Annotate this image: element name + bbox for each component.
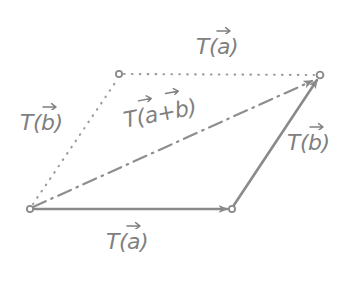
right-arrow-overbar-icon bbox=[126, 220, 143, 229]
right-arrow-overbar-icon bbox=[309, 121, 326, 130]
label-T-a-top-arg: a bbox=[217, 36, 230, 58]
label-T-a-bottom: T(a) bbox=[106, 231, 148, 253]
label-T-b-right: T(b) bbox=[287, 132, 330, 154]
label-T-b-left-close: ) bbox=[55, 112, 63, 134]
vertex-origin bbox=[27, 206, 33, 212]
label-T-b-right-base: T( bbox=[287, 132, 308, 154]
label-T-a-bottom-base: T( bbox=[106, 231, 127, 253]
label-T-b-left-arg: b bbox=[41, 112, 54, 134]
vertex-top-right bbox=[317, 72, 324, 79]
right-arrow-overbar-icon bbox=[42, 101, 59, 110]
label-T-a-bottom-arg: a bbox=[127, 231, 140, 253]
label-T-a-top: T(a) bbox=[196, 36, 238, 58]
right-arrow-overbar-icon bbox=[216, 25, 233, 34]
label-T-a-top-close: ) bbox=[230, 36, 238, 58]
vertex-top-left bbox=[116, 71, 122, 77]
label-T-b-left-base: T( bbox=[20, 112, 41, 134]
label-T-a-top-base: T( bbox=[196, 36, 217, 58]
label-T-b-right-arg: b bbox=[308, 132, 321, 154]
edge-top-dotted-Ta bbox=[124, 74, 314, 75]
label-T-b-right-close: ) bbox=[322, 132, 330, 154]
edge-left-dotted-Tb bbox=[33, 80, 117, 204]
vertex-bottom-right bbox=[229, 206, 235, 212]
label-T-a-bottom-close: ) bbox=[140, 231, 148, 253]
label-T-b-left: T(b) bbox=[20, 112, 63, 134]
vector-diagram-figure: T(a) T(b) T(a+b) T(b) T(a) bbox=[0, 0, 350, 288]
